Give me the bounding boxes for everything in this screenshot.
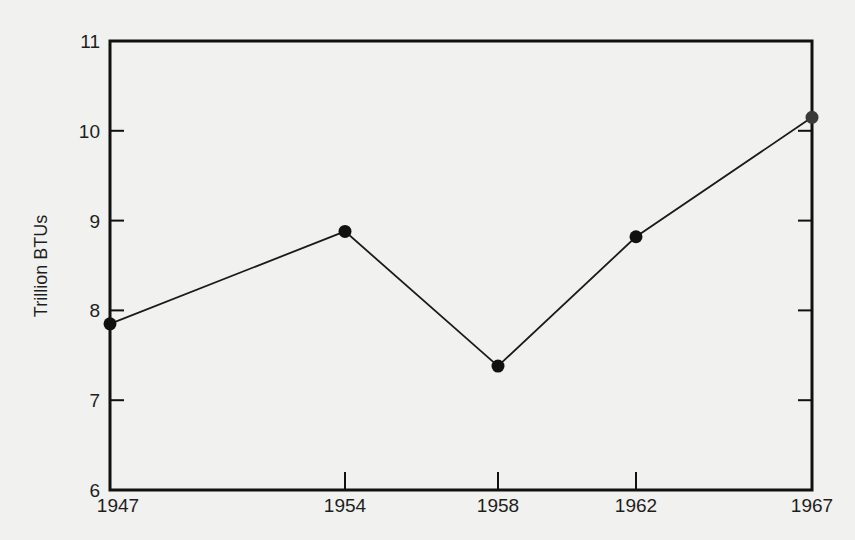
y-axis-ticks: 67891011 bbox=[79, 31, 812, 501]
plot-frame bbox=[110, 41, 812, 490]
data-point-marker bbox=[806, 111, 819, 124]
line-chart: Trillion BTUs 67891011 19471954195819621… bbox=[0, 0, 855, 540]
x-tick-label: 1958 bbox=[477, 495, 519, 516]
y-tick-label: 10 bbox=[79, 121, 100, 142]
y-tick-label: 7 bbox=[89, 390, 100, 411]
y-axis-title-group: Trillion BTUs bbox=[31, 215, 51, 317]
data-point-marker bbox=[630, 230, 643, 243]
y-axis-title: Trillion BTUs bbox=[31, 215, 51, 317]
data-point-marker bbox=[339, 225, 352, 238]
x-tick-label: 1962 bbox=[615, 495, 657, 516]
x-tick-label: 1967 bbox=[791, 495, 833, 516]
y-tick-label: 9 bbox=[89, 211, 100, 232]
series-line bbox=[110, 117, 812, 366]
x-tick-label: 1947 bbox=[97, 495, 139, 516]
x-axis-ticks: 19471954195819621967 bbox=[97, 472, 833, 516]
data-point-marker bbox=[104, 317, 117, 330]
y-tick-label: 11 bbox=[80, 31, 100, 52]
y-tick-label: 8 bbox=[89, 300, 100, 321]
data-point-marker bbox=[492, 360, 505, 373]
x-tick-label: 1954 bbox=[324, 495, 367, 516]
